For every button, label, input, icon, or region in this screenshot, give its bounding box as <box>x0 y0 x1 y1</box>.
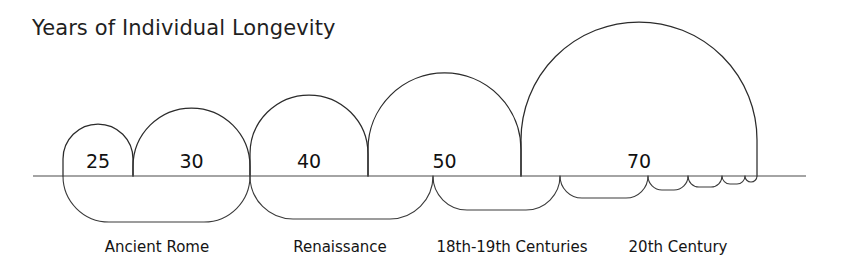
bar-value-label: 25 <box>86 150 110 172</box>
group-label: Renaissance <box>293 238 387 256</box>
page-title: Years of Individual Longevity <box>31 16 336 40</box>
group-label: 18th-19th Centuries <box>436 238 587 256</box>
chart-canvas: Years of Individual Longevity 2530405070… <box>0 0 842 280</box>
group-label: Ancient Rome <box>105 238 209 256</box>
bar-value-label: 50 <box>432 150 456 172</box>
bar-value-label: 70 <box>627 150 651 172</box>
bar-value-label: 30 <box>179 150 203 172</box>
bar-value-label: 40 <box>297 150 321 172</box>
longevity-figure: Years of Individual Longevity 2530405070… <box>0 0 842 280</box>
group-label: 20th Century <box>629 238 728 256</box>
